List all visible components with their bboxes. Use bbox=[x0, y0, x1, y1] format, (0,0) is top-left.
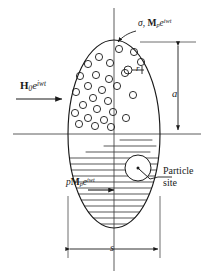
particle-site-line1: Particle bbox=[163, 165, 194, 177]
particle-site-line2: site bbox=[163, 177, 194, 189]
width-label: s bbox=[110, 243, 114, 253]
diagram-canvas bbox=[0, 0, 220, 279]
particle-site-callout: Particle site bbox=[163, 165, 194, 188]
surface-magnetization-leader bbox=[118, 31, 136, 42]
applied-field-symbol: H bbox=[20, 79, 29, 91]
dispersed-particles-group bbox=[71, 45, 144, 130]
hatching-lower-region bbox=[64, 140, 162, 236]
particle-radius-label: r bbox=[136, 64, 140, 73]
applied-field-exponent: iwt bbox=[37, 80, 46, 88]
dimension-a bbox=[140, 42, 196, 130]
semi-axis-label: a bbox=[172, 89, 177, 100]
particle-site-circle bbox=[125, 155, 151, 181]
internal-magnetization-label: pMpeiwt bbox=[66, 177, 95, 188]
internal-magnetization-exponent: iwt bbox=[87, 176, 95, 183]
internal-magnetization-symbol: M bbox=[71, 177, 80, 187]
magnetization-exponent: iwt bbox=[164, 17, 172, 24]
surface-magnetization-label: σ, Mpeiwt bbox=[138, 18, 171, 29]
applied-field-label: H0eiwt bbox=[20, 80, 46, 93]
